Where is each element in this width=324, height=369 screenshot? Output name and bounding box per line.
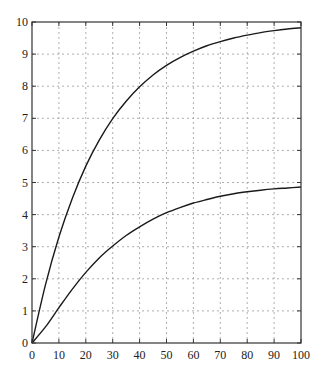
grid-lines [32, 22, 301, 343]
y-tick-label: 8 [22, 79, 28, 93]
upper-curve [32, 28, 301, 343]
lower-curve [32, 187, 301, 343]
y-tick-label: 10 [16, 15, 28, 29]
x-tick-label: 80 [241, 348, 253, 362]
x-tick-label: 40 [134, 348, 146, 362]
y-tick-label: 5 [22, 176, 28, 190]
y-tick-label: 2 [22, 272, 28, 286]
y-tick-label: 3 [22, 240, 28, 254]
data-series [32, 28, 301, 343]
x-tick-label: 30 [107, 348, 119, 362]
y-tick-label: 7 [22, 111, 28, 125]
x-tick-label: 10 [53, 348, 65, 362]
x-tick-label: 0 [29, 348, 35, 362]
x-tick-label: 20 [80, 348, 92, 362]
x-tick-label: 50 [161, 348, 173, 362]
y-tick-label: 1 [22, 304, 28, 318]
line-chart: 0102030405060708090100 012345678910 [0, 0, 324, 369]
x-tick-label: 70 [214, 348, 226, 362]
y-tick-label: 9 [22, 47, 28, 61]
x-tick-label: 60 [187, 348, 199, 362]
y-tick-label: 4 [22, 208, 28, 222]
x-tick-label: 90 [268, 348, 280, 362]
x-tick-label: 100 [292, 348, 310, 362]
y-tick-label: 0 [22, 336, 28, 350]
y-tick-label: 6 [22, 143, 28, 157]
